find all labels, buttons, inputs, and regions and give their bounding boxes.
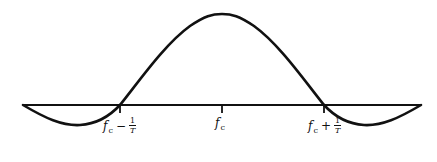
main-lobe: [120, 14, 324, 105]
label-right-num: 1: [334, 116, 341, 126]
label-right-sub: c: [313, 126, 317, 135]
label-left-num: 1: [129, 116, 136, 126]
label-right-den: T: [335, 126, 340, 135]
label-right-base: f: [308, 119, 312, 133]
label-left-op: −: [116, 119, 126, 133]
spectrum-diagram: [0, 0, 437, 162]
label-fc-minus-1-over-T: fc−1T: [103, 117, 136, 136]
label-right-op: +: [321, 119, 331, 133]
label-center-sub: c: [220, 123, 224, 132]
label-fc-plus-1-over-T: fc+1T: [308, 117, 341, 136]
label-left-sub: c: [108, 126, 112, 135]
label-fc: fc: [215, 117, 225, 129]
label-right-fraction: 1T: [334, 116, 341, 135]
label-left-fraction: 1T: [129, 116, 136, 135]
label-left-base: f: [103, 119, 107, 133]
label-left-den: T: [130, 126, 135, 135]
label-center-base: f: [215, 116, 219, 130]
